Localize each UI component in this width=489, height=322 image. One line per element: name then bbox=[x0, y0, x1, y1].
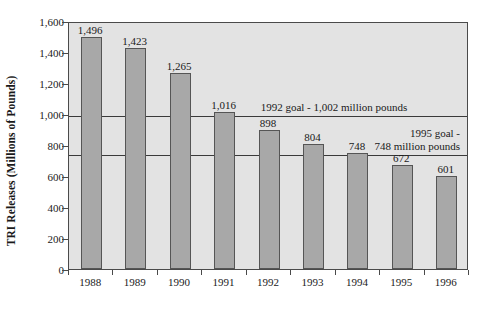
y-tick-label: 800 bbox=[4, 140, 64, 152]
plot-inner: 1992 goal - 1,002 million pounds1995 goa… bbox=[69, 23, 467, 269]
y-tick-label: 1,200 bbox=[4, 78, 64, 90]
bar-1995 bbox=[392, 165, 413, 269]
bar-1989 bbox=[125, 48, 146, 269]
bar-value-label: 1,265 bbox=[144, 60, 214, 72]
x-tick-mark bbox=[379, 270, 380, 275]
bar-value-label: 748 bbox=[322, 140, 392, 152]
x-tick-mark bbox=[246, 270, 247, 275]
plot-area: 1992 goal - 1,002 million pounds1995 goa… bbox=[68, 22, 468, 270]
bar-1992 bbox=[259, 130, 280, 269]
x-tick-mark bbox=[68, 270, 69, 275]
y-tick-label: 1,400 bbox=[4, 47, 64, 59]
bar-value-label: 898 bbox=[233, 117, 303, 129]
bar-value-label: 1,423 bbox=[100, 35, 170, 47]
x-tick-mark bbox=[201, 270, 202, 275]
bar-1990 bbox=[170, 73, 191, 269]
bar-1994 bbox=[347, 153, 368, 269]
bar-1988 bbox=[81, 37, 102, 269]
bar-chart: TRI Releases (Millions of Pounds) 020040… bbox=[0, 0, 489, 322]
bar-1991 bbox=[214, 112, 235, 269]
bar-value-label: 1,016 bbox=[189, 99, 259, 111]
goal-annotation-line: 1995 goal - bbox=[374, 127, 460, 140]
x-tick-mark bbox=[112, 270, 113, 275]
x-tick-label: 1996 bbox=[416, 276, 476, 288]
bar-1993 bbox=[303, 144, 324, 269]
y-tick-label: 1,000 bbox=[4, 109, 64, 121]
bar-1996 bbox=[436, 176, 457, 269]
y-tick-label: 400 bbox=[4, 202, 64, 214]
y-tick-label: 0 bbox=[4, 264, 64, 276]
x-tick-mark bbox=[157, 270, 158, 275]
x-tick-mark bbox=[290, 270, 291, 275]
y-tick-label: 600 bbox=[4, 171, 64, 183]
x-tick-mark bbox=[424, 270, 425, 275]
x-tick-mark bbox=[335, 270, 336, 275]
y-tick-label: 200 bbox=[4, 233, 64, 245]
bar-value-label: 1,496 bbox=[55, 24, 125, 36]
x-tick-mark bbox=[468, 270, 469, 275]
bar-value-label: 601 bbox=[411, 163, 481, 175]
